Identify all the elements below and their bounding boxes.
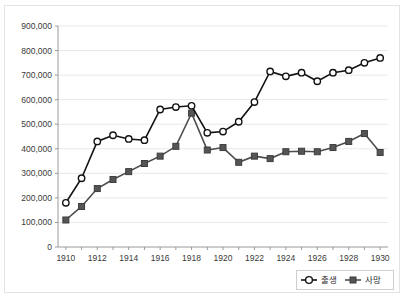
x-tick-label: 1910 (56, 253, 75, 263)
data-point-marker (63, 200, 69, 206)
x-tick-label: 1926 (308, 253, 327, 263)
series-births (63, 55, 384, 206)
data-point-marker (283, 73, 289, 79)
y-tick-label: 300,000 (21, 168, 52, 178)
data-point-marker (110, 132, 116, 138)
x-tick-label: 1928 (339, 253, 358, 263)
y-tick-label: 700,000 (21, 70, 52, 80)
data-point-marker (346, 138, 352, 144)
data-point-marker (314, 78, 320, 84)
data-point-marker (361, 60, 367, 66)
legend-label-births: 출생 (321, 275, 337, 285)
series-deaths (63, 110, 383, 223)
data-point-marker (157, 106, 163, 112)
data-point-marker (157, 153, 163, 159)
x-tick-label: 1922 (245, 253, 264, 263)
data-point-marker (330, 145, 336, 151)
data-point-marker (188, 103, 194, 109)
x-tick-label: 1930 (371, 253, 390, 263)
y-tick-label: 200,000 (21, 193, 52, 203)
data-point-marker (126, 136, 132, 142)
y-tick-label: 400,000 (21, 144, 52, 154)
x-tick-label: 1912 (88, 253, 107, 263)
data-point-marker (361, 131, 367, 137)
data-point-marker (189, 110, 195, 116)
data-point-marker (346, 67, 352, 73)
x-tick-label: 1924 (276, 253, 295, 263)
data-point-marker (141, 161, 147, 167)
data-point-marker (299, 148, 305, 154)
data-point-marker (94, 138, 100, 144)
square-filled-icon (350, 277, 356, 283)
x-tick-label: 1914 (119, 253, 138, 263)
x-tick-label: 1916 (151, 253, 170, 263)
y-tick-label: 900,000 (21, 21, 52, 31)
data-point-marker (236, 159, 242, 165)
data-point-marker (220, 145, 226, 151)
x-tick-label: 1918 (182, 253, 201, 263)
legend-entry-deaths: 사망 (345, 275, 381, 285)
chart-figure: 0100,000200,000300,000400,000500,000600,… (0, 0, 405, 299)
data-point-marker (204, 147, 210, 153)
data-point-marker (298, 69, 304, 75)
data-point-marker (251, 153, 257, 159)
data-point-marker (220, 128, 226, 134)
data-point-marker (377, 55, 383, 61)
data-point-marker (267, 156, 273, 162)
data-point-marker (283, 149, 289, 155)
y-tick-label: 600,000 (21, 95, 52, 105)
data-point-marker (141, 137, 147, 143)
x-tick-label: 1920 (214, 253, 233, 263)
data-point-marker (126, 169, 132, 175)
y-axis-tick-labels: 0100,000200,000300,000400,000500,000600,… (21, 21, 52, 252)
data-point-marker (267, 68, 273, 74)
data-point-marker (94, 186, 100, 192)
legend-entry-births: 출생 (301, 275, 337, 285)
data-point-marker (63, 217, 69, 223)
data-point-marker (173, 104, 179, 110)
data-point-marker (110, 176, 116, 182)
legend-label-deaths: 사망 (365, 275, 381, 285)
data-point-marker (79, 203, 85, 209)
data-point-marker (236, 119, 242, 125)
circle-open-icon (306, 277, 313, 284)
x-axis-tick-labels: 1910191219141916191819201922192419261928… (56, 253, 389, 263)
chart-plot-area: 0100,000200,000300,000400,000500,000600,… (0, 0, 405, 299)
y-tick-label: 500,000 (21, 119, 52, 129)
data-point-marker (314, 149, 320, 155)
data-point-marker (204, 130, 210, 136)
y-tick-label: 100,000 (21, 217, 52, 227)
y-tick-label: 800,000 (21, 46, 52, 56)
data-point-marker (330, 69, 336, 75)
y-tick-label: 0 (47, 242, 52, 252)
data-point-marker (173, 143, 179, 149)
gridlines (58, 26, 388, 222)
data-point-marker (377, 149, 383, 155)
chart-legend: 출생 사망 (296, 270, 394, 290)
data-point-marker (251, 99, 257, 105)
axis-lines (58, 26, 388, 247)
data-point-marker (78, 175, 84, 181)
